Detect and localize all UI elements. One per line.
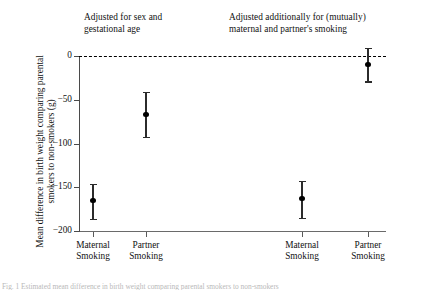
error-bar-cap-upper: [365, 48, 372, 49]
error-bar-cap-lower: [299, 218, 306, 219]
y-tick-label: −100: [34, 138, 72, 148]
error-bar-cap-upper: [299, 181, 306, 182]
error-bar-cap-lower: [365, 81, 372, 82]
y-tick-mark: [74, 144, 80, 145]
y-tick: −50: [0, 100, 72, 101]
panel-title-right: Adjusted additionally for (mutually) mat…: [229, 12, 434, 35]
x-axis-line: [79, 231, 386, 232]
y-tick: 0: [0, 56, 72, 57]
y-tick-mark: [74, 187, 80, 188]
data-point: [299, 196, 304, 201]
y-tick-label: −150: [34, 181, 72, 191]
x-tick-mark: [146, 232, 147, 237]
y-tick-label: −200: [34, 225, 72, 235]
y-tick: −150: [0, 187, 72, 188]
error-bar-cap-upper: [143, 92, 150, 93]
zero-reference-line: [79, 56, 386, 57]
figure-caption-remnant: Fig. 1 Estimated mean difference in birt…: [2, 283, 432, 290]
error-bar-cap-lower: [143, 137, 150, 138]
y-tick-mark: [74, 231, 80, 232]
error-bar-cap-lower: [90, 219, 97, 220]
panel-title-left: Adjusted for sex and gestational age: [84, 12, 234, 35]
x-tick-label: Maternal Smoking: [270, 240, 334, 263]
x-tick-mark: [302, 232, 303, 237]
data-point: [365, 62, 370, 67]
error-bar-cap-upper: [90, 184, 97, 185]
y-tick-label: 0: [34, 50, 72, 60]
data-point: [143, 112, 148, 117]
y-tick: −100: [0, 144, 72, 145]
x-tick-mark: [368, 232, 369, 237]
error-bar-chart: Adjusted for sex and gestational age Adj…: [0, 0, 434, 290]
y-tick-label: −50: [34, 94, 72, 104]
y-tick: −200: [0, 231, 72, 232]
x-tick-mark: [93, 232, 94, 237]
x-tick-label: Partner Smoking: [336, 240, 400, 263]
data-point: [90, 198, 95, 203]
x-tick-label: Partner Smoking: [114, 240, 178, 263]
y-tick-mark: [74, 100, 80, 101]
